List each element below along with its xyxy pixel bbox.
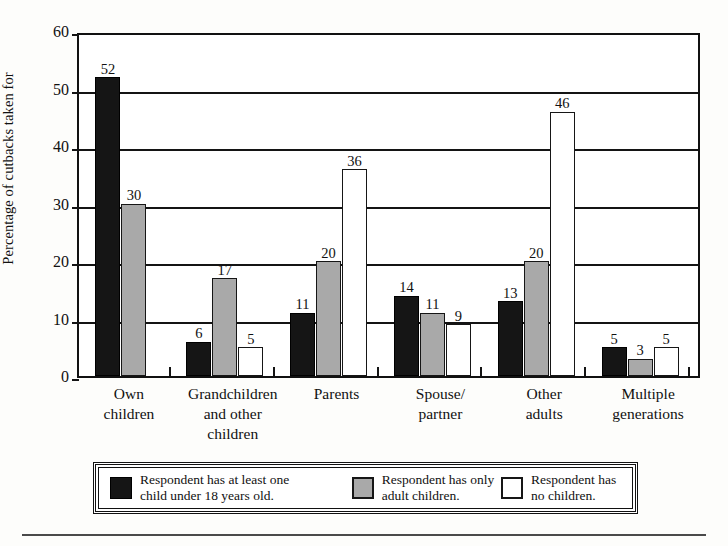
legend-label-gray-line2: adult children. — [382, 488, 460, 503]
category-label-line: adults — [526, 405, 563, 422]
y-tick-label-0: 0 — [29, 369, 69, 385]
bar: 14 — [394, 296, 419, 377]
plot-area: 5230617511203614119132046535 — [77, 33, 700, 378]
legend-swatch-gray — [352, 477, 374, 499]
bar-value-label: 46 — [555, 96, 570, 111]
bar: 11 — [290, 313, 315, 376]
bar-value-label: 13 — [503, 286, 518, 301]
bar-value-label: 20 — [529, 246, 544, 261]
legend-label-dark: Respondent has at least one child under … — [140, 472, 289, 504]
bar: 11 — [420, 313, 445, 376]
category-label-line: Multiple — [621, 385, 674, 402]
category-label-line: and other — [204, 405, 262, 422]
legend-label-white-line1: Respondent has — [531, 472, 616, 487]
category-label-line: Parents — [314, 385, 360, 402]
legend-label-gray-line1: Respondent has only — [382, 472, 495, 487]
y-tick-label-20: 20 — [29, 254, 69, 270]
category-label-line: generations — [612, 405, 683, 422]
legend-label-dark-line2: child under 18 years old. — [140, 488, 274, 503]
legend-item-has-young-child[interactable]: Respondent has at least one child under … — [110, 472, 352, 504]
legend-item-no-children[interactable]: Respondent has no children. — [501, 472, 621, 504]
legend-label-gray: Respondent has only adult children. — [382, 472, 495, 504]
bar-value-label: 3 — [636, 343, 643, 358]
bar: 20 — [316, 261, 341, 376]
bar-value-label: 5 — [610, 332, 617, 347]
y-tick-mark-40 — [72, 149, 79, 151]
x-tick-mark — [169, 367, 171, 376]
gridline-50 — [79, 92, 698, 94]
gridline-20 — [79, 264, 698, 266]
y-tick-mark-10 — [72, 322, 79, 324]
y-tick-label-30: 30 — [29, 197, 69, 213]
bar: 17 — [212, 278, 237, 376]
bar-value-label: 30 — [127, 188, 142, 203]
x-tick-mark — [377, 367, 379, 376]
y-axis-title: Percentage of cutbacks taken for — [0, 0, 17, 359]
bar-value-label: 52 — [101, 62, 116, 77]
y-tick-mark-20 — [72, 264, 79, 266]
bar-value-label: 20 — [321, 246, 336, 261]
footer-divider — [22, 534, 706, 536]
y-tick-label-60: 60 — [29, 24, 69, 40]
bar: 6 — [186, 342, 211, 377]
x-tick-mark — [584, 367, 586, 376]
bar: 3 — [628, 359, 653, 376]
bar: 13 — [498, 301, 523, 376]
bar-chart-figure: 5230617511203614119132046535 Percentage … — [0, 0, 728, 546]
y-tick-label-40: 40 — [29, 139, 69, 155]
x-tick-mark — [480, 367, 482, 376]
legend-label-dark-line1: Respondent has at least one — [140, 472, 289, 487]
x-tick-mark — [273, 367, 275, 376]
legend-swatch-dark — [110, 477, 132, 499]
category-label-line: Spouse/ — [416, 385, 465, 402]
gridline-40 — [79, 149, 698, 151]
bar: 52 — [95, 77, 120, 376]
legend-item-adult-children-only[interactable]: Respondent has only adult children. — [352, 472, 501, 504]
bar-value-label: 5 — [662, 332, 669, 347]
category-label: Multiplegenerations — [576, 384, 720, 424]
bar-value-label: 9 — [455, 309, 462, 324]
gridline-30 — [79, 207, 698, 209]
bar-value-label: 17 — [218, 263, 233, 278]
bar: 36 — [342, 169, 367, 376]
bar-value-label: 36 — [347, 154, 362, 169]
bar: 20 — [524, 261, 549, 376]
bar-value-label: 14 — [399, 280, 414, 295]
y-tick-mark-0 — [72, 379, 79, 381]
bar: 9 — [446, 324, 471, 376]
y-tick-mark-50 — [72, 92, 79, 94]
category-label-line: children — [104, 405, 155, 422]
bar-value-label: 6 — [195, 326, 202, 341]
bar: 5 — [654, 347, 679, 376]
bar: 5 — [602, 347, 627, 376]
chart-legend: Respondent has at least one child under … — [93, 462, 638, 514]
bar: 30 — [121, 204, 146, 377]
category-label-line: children — [207, 425, 258, 442]
bar: 5 — [238, 347, 263, 376]
y-tick-mark-30 — [72, 207, 79, 209]
y-tick-label-10: 10 — [29, 312, 69, 328]
bar-value-label: 11 — [296, 297, 310, 312]
legend-swatch-white — [501, 477, 523, 499]
x-tick-mark — [688, 367, 690, 376]
legend-label-white: Respondent has no children. — [531, 472, 616, 504]
category-label-line: Other — [527, 385, 562, 402]
legend-label-white-line2: no children. — [531, 488, 595, 503]
bar-value-label: 11 — [425, 297, 439, 312]
y-tick-mark-60 — [72, 34, 79, 36]
gridline-10 — [79, 322, 698, 324]
y-tick-label-50: 50 — [29, 82, 69, 98]
bar-value-label: 5 — [247, 332, 254, 347]
bar: 46 — [550, 112, 575, 377]
category-label-line: Own — [114, 385, 144, 402]
category-label-line: partner — [418, 405, 462, 422]
